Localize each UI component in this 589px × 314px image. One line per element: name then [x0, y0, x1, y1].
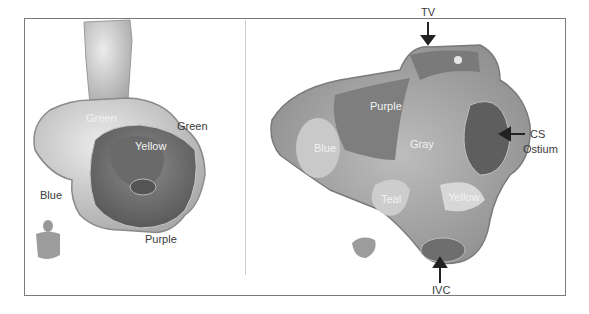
left-atrium-model	[34, 20, 205, 259]
orientation-torso-icon-right	[352, 238, 376, 258]
right-atrium-model	[271, 45, 530, 264]
label-green-top: Green	[86, 112, 117, 124]
label-ostium: Ostium	[523, 143, 558, 155]
label-yellow-right: Yellow	[448, 191, 479, 203]
label-purple-left: Purple	[145, 233, 177, 245]
label-teal: Teal	[381, 193, 401, 205]
label-tv: TV	[421, 6, 435, 18]
label-gray: Gray	[410, 138, 434, 150]
tv-arrow-icon	[422, 22, 434, 44]
anatomy-illustration	[0, 0, 589, 314]
orientation-torso-icon	[36, 220, 60, 259]
label-purple-right: Purple	[370, 100, 402, 112]
label-ivc: IVC	[432, 284, 450, 296]
label-cs: CS	[530, 128, 545, 140]
label-blue-right: Blue	[314, 142, 336, 154]
label-yellow-left: Yellow	[135, 140, 166, 152]
label-blue-left: Blue	[40, 189, 62, 201]
label-green-right: Green	[177, 120, 208, 132]
